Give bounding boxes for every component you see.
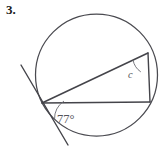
angle-arc-c xyxy=(133,60,141,72)
geometry-diagram: 77° c xyxy=(0,0,163,150)
angle-label-77: 77° xyxy=(57,112,75,126)
circle-outline xyxy=(36,14,158,136)
tangent-line xyxy=(21,65,68,145)
chord-horizontal xyxy=(42,102,150,103)
chord-right-vertical xyxy=(148,53,150,102)
geometry-figure: 3. 77° c xyxy=(0,0,163,150)
angle-label-c: c xyxy=(128,69,133,80)
